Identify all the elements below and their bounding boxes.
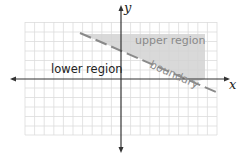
- x-axis-label: x: [229, 77, 236, 92]
- lower-region-label: lower region: [51, 62, 122, 76]
- upper-region-label: upper region: [135, 34, 206, 47]
- inequality-graph: [0, 0, 243, 161]
- y-axis-label: y: [124, 0, 131, 15]
